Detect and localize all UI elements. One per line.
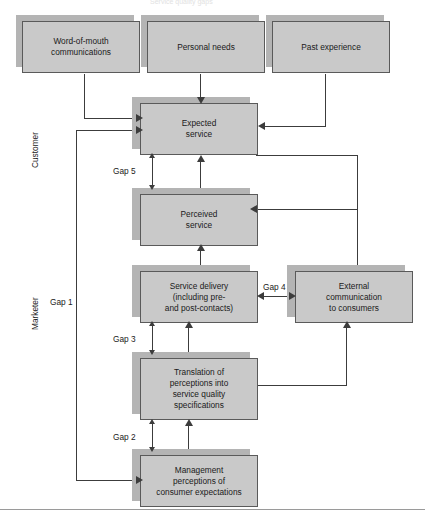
side-label-marketer: Marketer [30, 297, 40, 330]
node-service-delivery[interactable]: Service delivery(including pre-and post-… [140, 271, 258, 323]
top-caption: Service quality gaps [150, 0, 213, 5]
edge-gap3-v [152, 325, 153, 352]
node-management-perceptions[interactable]: Managementperceptions ofconsumer expecta… [140, 455, 258, 507]
node-translation[interactable]: Translation ofperceptions intoservice qu… [140, 358, 258, 420]
edge-gap1-v [76, 130, 77, 481]
arrowhead-gap5-up [149, 153, 155, 158]
side-label-customer: Customer [30, 132, 40, 168]
edge-gap5-v [152, 157, 153, 187]
node-past-experience[interactable]: Past experience [272, 21, 390, 73]
node-word-of-mouth-label: Word-of-mouthcommunications [48, 36, 114, 58]
arrowhead-wom-expected [136, 114, 143, 122]
node-translation-label: Translation ofperceptions intoservice qu… [167, 367, 232, 411]
node-personal-needs[interactable]: Personal needs [147, 21, 265, 73]
arrowhead-gap5-down [149, 185, 155, 190]
arrowhead-gap3-up [149, 321, 155, 326]
gap-1-label: Gap 1 [50, 297, 73, 307]
arrowhead-gap1-management [136, 476, 143, 484]
node-perceived-service-label: Perceivedservice [178, 209, 221, 231]
node-personal-needs-label: Personal needs [174, 42, 238, 53]
arrowhead-personal-expected [197, 97, 205, 104]
arrowhead-gap3-down [149, 350, 155, 355]
arrowhead-gap4-left [257, 292, 264, 300]
node-word-of-mouth[interactable]: Word-of-mouthcommunications [22, 21, 140, 73]
arrowhead-translation-delivery [185, 321, 193, 328]
node-external-communication[interactable]: Externalcommunicationto consumers [295, 271, 413, 323]
node-perceived-service[interactable]: Perceivedservice [140, 194, 258, 246]
edge-wom-expected-v [84, 74, 85, 118]
edge-management-translation-v [188, 424, 189, 451]
arrowhead-delivery-perceived [197, 244, 205, 251]
edge-translation-extcomm-v [346, 327, 347, 386]
gap-3-label: Gap 3 [113, 334, 136, 344]
edge-past-expected-v [325, 74, 326, 126]
edge-gap1-h-bottom [76, 480, 140, 481]
edge-perceived-expected-v [200, 160, 201, 190]
gap-2-label: Gap 2 [113, 432, 136, 442]
arrowhead-gap1-expected [136, 126, 143, 134]
edge-translation-delivery-v [188, 326, 189, 354]
diagram-canvas: Service quality gaps [0, 0, 425, 519]
node-expected-service-label: Expectedservice [179, 118, 220, 140]
edge-extcomm-expected-h [256, 155, 358, 156]
node-expected-service[interactable]: Expectedservice [140, 103, 258, 155]
arrowhead-gap4-right [289, 292, 296, 300]
bottom-rule [0, 509, 425, 510]
edge-extcomm-perceived-h [256, 209, 358, 210]
edge-gap2-v [152, 423, 153, 449]
edge-translation-extcomm-h [250, 385, 346, 386]
node-management-perceptions-label: Managementperceptions ofconsumer expecta… [153, 465, 244, 498]
arrowhead-management-translation [185, 419, 193, 426]
arrowhead-perceived-expected [197, 155, 205, 162]
arrowhead-translation-extcomm [343, 321, 351, 328]
arrowhead-gap2-up [149, 419, 155, 424]
node-external-communication-label: Externalcommunicationto consumers [323, 281, 385, 314]
node-service-delivery-label: Service delivery(including pre-and post-… [162, 281, 236, 314]
edge-extcomm-expected-v [357, 155, 358, 268]
edge-gap1-h-top [76, 130, 140, 131]
arrowhead-gap2-down [149, 447, 155, 452]
arrowhead-past-expected [258, 122, 265, 130]
edge-past-expected-h [264, 126, 326, 127]
gap-5-label: Gap 5 [113, 166, 136, 176]
gap-4-label: Gap 4 [263, 282, 286, 292]
node-past-experience-label: Past experience [298, 42, 364, 53]
arrowhead-extcomm-perceived [250, 205, 257, 213]
